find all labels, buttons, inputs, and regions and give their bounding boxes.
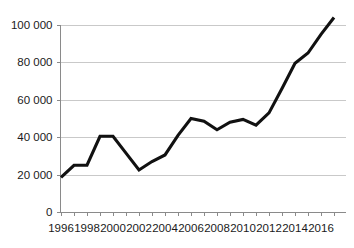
y-tick-label: 20 000 <box>17 169 52 181</box>
y-tick-label: 40 000 <box>17 131 52 143</box>
y-tick-label: 80 000 <box>17 56 52 68</box>
x-tick-label: 2002 <box>126 222 152 234</box>
y-tick-label: 100 000 <box>11 19 53 31</box>
y-tick-label: 60 000 <box>17 94 52 106</box>
x-tick-label: 2010 <box>230 222 256 234</box>
x-tick-label: 2016 <box>308 222 334 234</box>
x-tick-label: 2004 <box>152 222 178 234</box>
x-tick-label: 2008 <box>204 222 230 234</box>
y-tick-label: 0 <box>46 206 52 218</box>
x-tick-label: 2012 <box>256 222 282 234</box>
x-tick-label: 1998 <box>74 222 100 234</box>
x-tick-label: 2006 <box>178 222 204 234</box>
x-axis-tick-labels: 1996199820002002200420062008201020122014… <box>48 222 334 234</box>
x-tick-label: 2000 <box>100 222 126 234</box>
chart-background <box>0 0 354 248</box>
chart-canvas: 020 00040 00060 00080 000100 000 1996199… <box>0 0 354 248</box>
x-tick-label: 1996 <box>48 222 74 234</box>
line-chart: 020 00040 00060 00080 000100 000 1996199… <box>0 0 354 248</box>
x-tick-label: 2014 <box>282 222 308 234</box>
